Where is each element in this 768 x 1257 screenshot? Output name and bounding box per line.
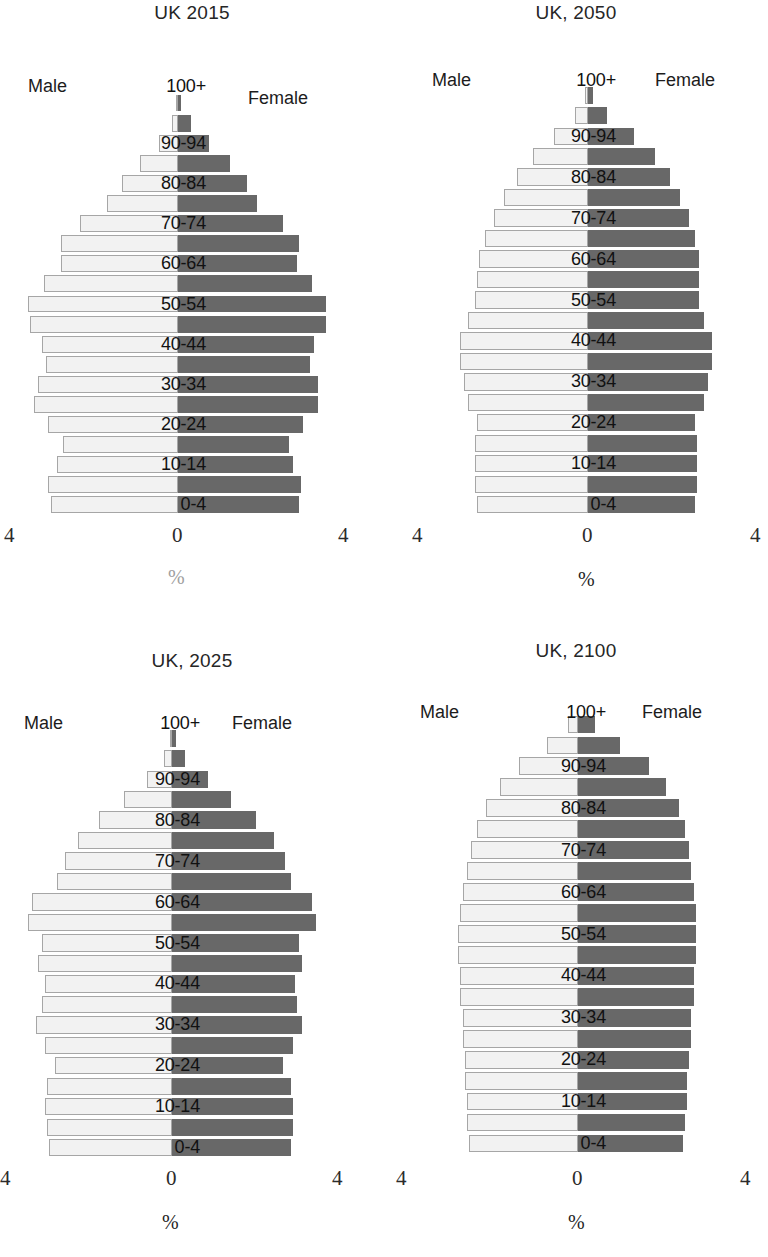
bar-female bbox=[588, 435, 697, 452]
pyramid-row bbox=[384, 777, 768, 798]
bar-male bbox=[533, 148, 588, 165]
bar-male bbox=[500, 778, 578, 796]
age-group-label: 0-4 bbox=[384, 494, 616, 515]
age-group-label: 0-4 bbox=[384, 1133, 606, 1154]
bar-male bbox=[30, 316, 178, 333]
bar-female bbox=[172, 873, 291, 890]
pyramid-grid: UK 2015MaleFemale0-410-1420-2430-3440-44… bbox=[0, 0, 768, 1257]
pyramid-row bbox=[384, 310, 768, 330]
age-group-label: 60-64 bbox=[384, 249, 616, 270]
pyramid-row bbox=[384, 269, 768, 289]
age-group-label: 40-44 bbox=[384, 965, 606, 986]
plot-area: 0-410-1420-2430-3440-4450-5460-6470-7480… bbox=[384, 714, 768, 1154]
bar-male bbox=[465, 1072, 578, 1090]
bar-male bbox=[477, 271, 588, 288]
age-group-label: 40-44 bbox=[0, 973, 200, 994]
pyramid-row bbox=[384, 903, 768, 924]
age-group-label: 60-64 bbox=[0, 253, 206, 274]
bar-female bbox=[178, 95, 181, 112]
bar-male bbox=[460, 904, 578, 922]
bar-male bbox=[475, 476, 588, 493]
pyramid-row bbox=[0, 912, 384, 932]
pyramid-row bbox=[384, 105, 768, 125]
bar-male bbox=[460, 988, 578, 1006]
age-group-label-100-plus: 100+ bbox=[0, 76, 206, 97]
bar-female bbox=[588, 312, 704, 329]
age-group-label: 50-54 bbox=[0, 294, 206, 315]
pyramid-row bbox=[0, 274, 384, 294]
age-group-label-100-plus: 100+ bbox=[0, 713, 200, 734]
bar-male bbox=[42, 996, 172, 1013]
axis-unit-label: % bbox=[578, 568, 595, 591]
pyramid-row bbox=[384, 392, 768, 412]
pyramid-row bbox=[384, 1112, 768, 1133]
age-group-label: 70-74 bbox=[384, 840, 606, 861]
pyramid-row bbox=[384, 1070, 768, 1091]
pyramid-row bbox=[384, 944, 768, 965]
age-group-label-100-plus: 100+ bbox=[384, 702, 606, 723]
age-group-label: 60-64 bbox=[0, 892, 200, 913]
age-group-label: 80-84 bbox=[0, 173, 206, 194]
pyramid-row bbox=[0, 871, 384, 891]
bar-female bbox=[588, 189, 680, 206]
axis-unit-label: % bbox=[162, 1211, 179, 1234]
pyramid-row bbox=[0, 1117, 384, 1137]
bar-female bbox=[588, 230, 695, 247]
bar-female bbox=[588, 271, 699, 288]
axis-tick-center: 0 bbox=[172, 523, 183, 548]
bar-female bbox=[178, 115, 191, 132]
axis-tick-center: 0 bbox=[582, 523, 593, 548]
pyramid-row bbox=[384, 1028, 768, 1049]
age-group-label: 10-14 bbox=[384, 1091, 606, 1112]
bar-female bbox=[178, 235, 299, 252]
axis-tick-left: 4 bbox=[0, 1166, 11, 1191]
bar-female bbox=[172, 1037, 293, 1054]
bar-female bbox=[578, 1114, 685, 1132]
bar-male bbox=[47, 1119, 172, 1136]
axis-tick-right: 4 bbox=[338, 523, 349, 548]
pyramid-row bbox=[384, 228, 768, 248]
age-group-label: 0-4 bbox=[0, 1137, 200, 1158]
panel-uk-2025: UK, 2025MaleFemale0-410-1420-2430-3440-4… bbox=[0, 628, 384, 1257]
bar-female bbox=[578, 737, 620, 755]
age-group-label: 80-84 bbox=[384, 167, 616, 188]
bar-male bbox=[164, 750, 172, 767]
pyramid-row bbox=[0, 789, 384, 809]
bar-female bbox=[578, 904, 696, 922]
pyramid-row bbox=[384, 861, 768, 882]
panel-title: UK, 2050 bbox=[384, 2, 768, 24]
bar-male bbox=[61, 235, 178, 252]
bar-male bbox=[47, 1078, 172, 1095]
bar-male bbox=[44, 275, 178, 292]
bar-male bbox=[467, 862, 578, 880]
bar-female bbox=[172, 1119, 293, 1136]
bar-male bbox=[78, 832, 172, 849]
bar-female bbox=[178, 195, 257, 212]
bar-female bbox=[588, 148, 655, 165]
bar-female bbox=[178, 316, 326, 333]
pyramid-row bbox=[0, 314, 384, 334]
bar-female bbox=[578, 946, 696, 964]
age-group-label: 30-34 bbox=[384, 371, 616, 392]
bar-female bbox=[578, 820, 685, 838]
bar-female bbox=[178, 356, 310, 373]
panel-uk-2100: UK, 2100MaleFemale0-410-1420-2430-3440-4… bbox=[384, 628, 768, 1257]
age-group-label: 70-74 bbox=[0, 851, 200, 872]
age-group-label: 90-94 bbox=[384, 126, 616, 147]
pyramid-row bbox=[384, 433, 768, 453]
bar-female bbox=[588, 353, 712, 370]
age-group-label: 20-24 bbox=[384, 412, 616, 433]
bar-female bbox=[578, 862, 691, 880]
age-group-label: 50-54 bbox=[384, 924, 606, 945]
bar-male bbox=[46, 356, 178, 373]
pyramid-row bbox=[384, 819, 768, 840]
age-group-label-100-plus: 100+ bbox=[384, 70, 616, 91]
bar-female bbox=[578, 1072, 687, 1090]
bar-male bbox=[475, 435, 588, 452]
bar-female bbox=[588, 476, 697, 493]
bar-male bbox=[477, 820, 578, 838]
age-group-label: 60-64 bbox=[384, 882, 606, 903]
age-group-label: 30-34 bbox=[384, 1007, 606, 1028]
pyramid-row bbox=[0, 354, 384, 374]
age-group-label: 20-24 bbox=[384, 1049, 606, 1070]
